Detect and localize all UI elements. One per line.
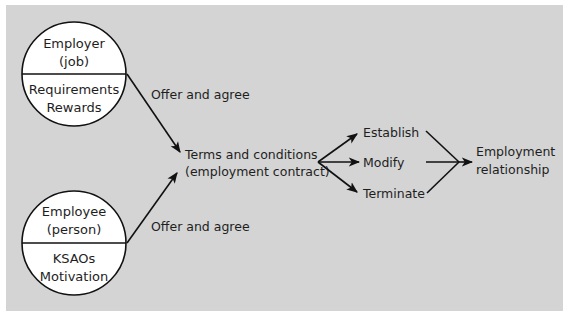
employment-relationship-diagram: Employer (job) Requirements Rewards Empl…	[0, 0, 570, 319]
offer-label-top: Offer and agree	[151, 87, 250, 102]
employee-ksaos: KSAOs	[53, 251, 96, 266]
employer-subtitle: (job)	[59, 54, 89, 69]
action-terminate: Terminate	[362, 186, 425, 201]
employer-requirements: Requirements	[29, 82, 120, 97]
employee-title: Employee	[42, 204, 106, 219]
employee-motivation: Motivation	[40, 269, 108, 284]
result-line1: Employment	[476, 144, 555, 159]
terms-line1: Terms and conditions	[184, 147, 318, 162]
employer-title: Employer	[43, 36, 105, 51]
action-establish: Establish	[363, 125, 419, 140]
terms-line2: (employment contract)	[185, 164, 330, 179]
result-line2: relationship	[476, 162, 550, 177]
employee-circle: Employee (person) KSAOs Motivation	[22, 191, 126, 295]
employee-subtitle: (person)	[47, 222, 102, 237]
action-modify: Modify	[363, 155, 405, 170]
employer-rewards: Rewards	[46, 100, 101, 115]
employer-circle: Employer (job) Requirements Rewards	[22, 22, 126, 126]
offer-label-bottom: Offer and agree	[151, 219, 250, 234]
